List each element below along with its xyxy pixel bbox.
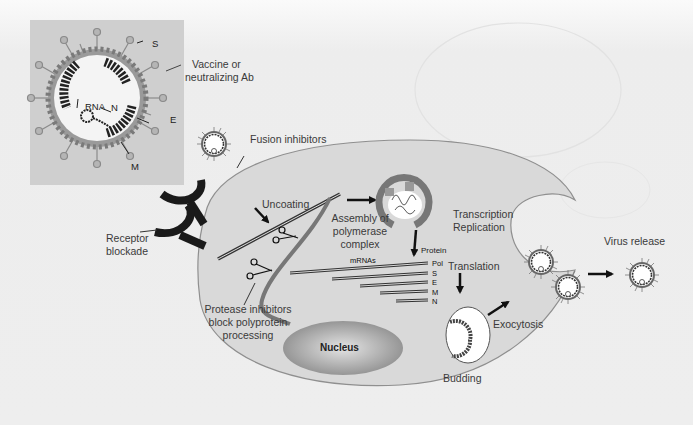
label-s-protein: S: [152, 38, 158, 50]
label-protein-header: Protein: [421, 245, 446, 257]
virion-icon: [524, 245, 558, 279]
label-e-protein: E: [170, 114, 176, 126]
label-protease-3: processing: [198, 329, 298, 341]
label-protein-n: N: [432, 296, 437, 308]
label-mrnas: mRNAs: [350, 255, 376, 267]
viral-lifecycle-diagram: S RNA N E M Vaccine or neutralizing Ab F…: [0, 0, 693, 425]
label-protease-1: Protease inhibitors: [198, 303, 298, 315]
released-virion-icon: [625, 258, 659, 292]
label-translation: Translation: [448, 260, 500, 272]
label-uncoating: Uncoating: [262, 198, 309, 210]
label-budding: Budding: [443, 372, 482, 384]
label-rna: RNA: [85, 101, 105, 113]
fusion-virion-icon: [197, 127, 231, 161]
label-assembly-1: Assembly of: [325, 212, 395, 224]
label-vaccine-line1: Vaccine or: [192, 58, 241, 70]
label-assembly-3: complex: [325, 238, 395, 250]
label-nucleus: Nucleus: [320, 342, 359, 354]
label-fusion-inhibitors: Fusion inhibitors: [250, 133, 326, 145]
virion-icon: [551, 270, 585, 304]
label-receptor: Receptor: [106, 232, 149, 244]
label-virus-release: Virus release: [604, 235, 665, 247]
label-exocytosis: Exocytosis: [493, 318, 543, 330]
label-vaccine-line2: neutralizing Ab: [185, 71, 254, 83]
label-transcription: Transcription: [453, 208, 513, 220]
label-protease-2: block polyprotein: [198, 316, 298, 328]
budding-vesicle-icon: [446, 307, 490, 363]
label-m-protein: M: [131, 161, 139, 173]
label-assembly-2: polymerase: [325, 225, 395, 237]
label-blockade: blockade: [106, 245, 148, 257]
label-n-protein: N: [111, 102, 118, 114]
label-replication: Replication: [453, 221, 505, 233]
